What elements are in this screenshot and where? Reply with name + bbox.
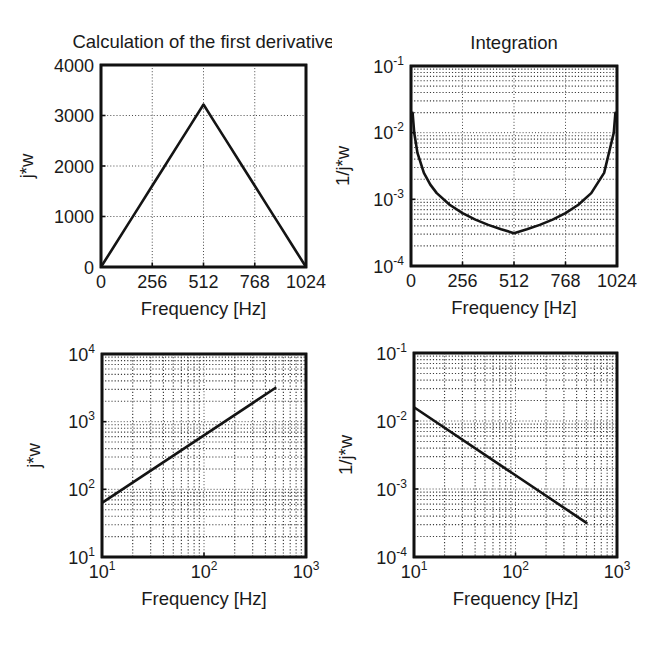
axis-tick-label: 1024: [597, 271, 637, 291]
chart-panel-top-right: 0256512768102410-410-310-210-1Frequency …: [332, 0, 664, 325]
axis-tick-label: 10-4: [373, 254, 404, 277]
y-axis-title: 1/j*w: [332, 145, 353, 186]
figure-panel-grid: 0256512768102401000200030004000Frequency…: [0, 0, 664, 651]
axis-tick-label: 102: [68, 477, 95, 500]
chart-panel-bottom-right: 10110210310-410-310-210-1Frequency [Hz]1…: [332, 325, 664, 651]
axis-tick-label: 4000: [54, 56, 94, 76]
axis-tick-label: 102: [502, 559, 529, 582]
axis-tick-label: 103: [68, 409, 95, 432]
axis-tick-label: 256: [137, 272, 167, 292]
chart-panel-top-left: 0256512768102401000200030004000Frequency…: [0, 0, 332, 325]
axis-tick-label: 10-1: [376, 341, 407, 364]
axis-tick-label: 10-1: [373, 54, 404, 77]
chart-title: Calculation of the first derivative: [72, 31, 332, 52]
axis-tick-label: 768: [550, 271, 580, 291]
axis-tick-label: 512: [499, 271, 529, 291]
x-axis-title: Frequency [Hz]: [453, 588, 578, 609]
axis-tick-label: 10-2: [373, 120, 404, 143]
chart-panel-bottom-left: 101102103101102103104Frequency [Hz]j*w: [0, 325, 332, 651]
axis-tick-label: 102: [191, 559, 218, 582]
axis-tick-label: 3000: [54, 106, 94, 126]
axis-tick-label: 10-3: [373, 187, 404, 210]
x-axis-title: Frequency [Hz]: [451, 297, 576, 318]
axis-tick-label: 104: [68, 342, 95, 365]
y-axis-title: j*w: [16, 153, 37, 179]
axis-tick-label: 1024: [286, 272, 326, 292]
axis-tick-label: 103: [293, 559, 320, 582]
axis-tick-label: 0: [96, 272, 106, 292]
axis-tick-label: 10-3: [376, 477, 407, 500]
chart-title: Integration: [470, 32, 557, 53]
axis-tick-label: 512: [188, 272, 218, 292]
y-axis-title: j*w: [23, 443, 44, 469]
axis-tick-label: 768: [240, 272, 270, 292]
axis-tick-label: 256: [447, 271, 477, 291]
axis-tick-label: 0: [84, 258, 94, 278]
axis-tick-label: 101: [89, 559, 116, 582]
axis-tick-label: 2000: [54, 157, 94, 177]
axis-tick-label: 101: [401, 559, 428, 582]
y-axis-title: 1/j*w: [335, 434, 356, 475]
axis-tick-label: 1000: [54, 207, 94, 227]
x-axis-title: Frequency [Hz]: [141, 298, 266, 319]
axis-tick-label: 10-2: [376, 409, 407, 432]
x-axis-title: Frequency [Hz]: [141, 588, 266, 609]
axis-tick-label: 103: [604, 559, 631, 582]
axis-tick-label: 0: [406, 271, 416, 291]
